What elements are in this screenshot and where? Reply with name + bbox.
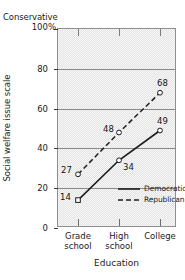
chart-top-annotation-conservative: Conservative: [3, 12, 58, 22]
point-label-republican-grade-school: 27: [61, 166, 72, 175]
series-democratic-marker-grade-school: [76, 198, 81, 203]
x-tick-label-grade-school-line2: school: [64, 241, 91, 251]
social-welfare-education-line-chart: Conservative Social welfare issue scale …: [0, 0, 185, 280]
x-tick-label-college: College: [144, 232, 176, 242]
legend-item-republican: Republican: [118, 194, 185, 205]
y-tick-label-60: 60: [37, 104, 48, 113]
y-tick-label-20: 20: [37, 184, 48, 193]
x-tick-label-grade-school-line1: Grade: [65, 231, 91, 241]
y-tick-label-80: 80: [37, 65, 48, 74]
point-label-democratic-high-school: 34: [123, 163, 134, 172]
x-tick-label-college-line1: College: [144, 231, 176, 241]
y-axis-title: Social welfare issue scale: [2, 74, 12, 181]
y-tick-label-0: 0: [43, 223, 48, 232]
legend-line-sample-dashed: [118, 196, 140, 204]
legend-label-republican: Republican: [144, 195, 184, 204]
point-label-democratic-college: 49: [157, 117, 168, 126]
x-tick-label-high-school-line1: High: [109, 231, 129, 241]
series-democratic-marker-college: [158, 128, 163, 133]
x-axis-title: Education: [57, 258, 176, 268]
point-label-republican-college: 68: [157, 79, 168, 88]
chart-legend: Democratic Republican: [118, 183, 185, 205]
point-label-republican-high-school: 48: [103, 125, 114, 134]
x-tick-label-grade-school: Gradeschool: [64, 232, 91, 251]
legend-item-democratic: Democratic: [118, 183, 185, 194]
series-republican-marker-college: [158, 90, 163, 95]
series-republican: [76, 90, 163, 176]
plot-area: 80 60 40 20 0 Gradeschool Highschool: [57, 28, 176, 227]
y-axis-title-container: Social welfare issue scale: [0, 28, 14, 227]
x-tick-label-high-school: Highschool: [105, 232, 132, 251]
point-label-democratic-grade-school: 14: [60, 193, 71, 202]
series-democratic-marker-high-school: [117, 158, 122, 163]
series-republican-marker-grade-school: [76, 172, 81, 177]
legend-label-democratic: Democratic: [144, 184, 185, 193]
y-tick-label-100: 100%: [32, 22, 56, 32]
plot-inner: 80 60 40 20 0 Gradeschool Highschool: [58, 29, 175, 226]
legend-line-sample-solid: [118, 185, 140, 193]
series-republican-marker-high-school: [117, 130, 122, 135]
x-tick-label-high-school-line2: school: [105, 241, 132, 251]
y-tick-label-40: 40: [37, 144, 48, 153]
